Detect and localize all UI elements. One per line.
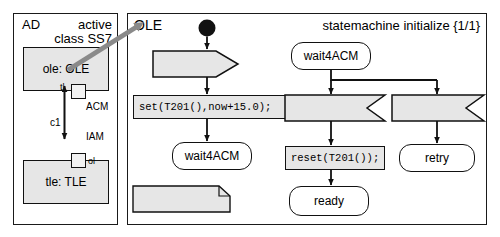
port-ol[interactable] (71, 153, 86, 168)
diagram-canvas: AD active class SS7 ole: OLE tle: TLE tl… (0, 0, 500, 237)
statemachine-label: statemachine initialize {1/1} (322, 19, 480, 33)
state-retry-label: retry (425, 151, 449, 165)
ole-panel-title: OLE (134, 18, 162, 33)
state-wait4acm-top-label: wait4ACM (304, 49, 359, 63)
ad-stereotype-label: active class SS7 (22, 18, 112, 46)
action-reset-t201-label: reset(T201()); (291, 152, 379, 164)
part-ole[interactable]: ole: OLE (23, 47, 109, 91)
connector-name-label: c1 (50, 117, 61, 128)
signal-t201-label: T201() (400, 96, 437, 122)
state-retry[interactable]: retry (399, 144, 475, 172)
state-wait4acm-top[interactable]: wait4ACM (291, 42, 371, 70)
state-ready[interactable]: ready (289, 186, 369, 216)
part-tle-label: tle: TLE (45, 175, 86, 189)
port-tl-label: tl (60, 82, 65, 92)
part-ole-label: ole: OLE (43, 62, 90, 76)
note-timer-label: timer T201; (140, 188, 217, 212)
action-reset-t201[interactable]: reset(T201()); (285, 146, 385, 170)
port-tl[interactable] (71, 84, 86, 99)
action-set-t201-label: set(T201(),now+15.0); (139, 101, 271, 113)
action-set-t201[interactable]: set(T201(),now+15.0); (133, 95, 288, 119)
connector-signal-acm-label: ACM (86, 101, 108, 112)
port-ol-label: ol (88, 156, 95, 166)
ad-panel: AD active class SS7 ole: OLE tle: TLE tl… (13, 13, 118, 225)
state-wait4acm-left-label: wait4ACM (185, 149, 240, 163)
part-tle[interactable]: tle: TLE (23, 160, 109, 204)
connector-signal-iam-label: IAM (86, 131, 104, 142)
signal-acm-label: ACM() (293, 96, 329, 122)
state-wait4acm-left[interactable]: wait4ACM (172, 142, 252, 170)
signal-iam-label: IAM() (160, 51, 191, 77)
state-ready-label: ready (314, 194, 344, 208)
